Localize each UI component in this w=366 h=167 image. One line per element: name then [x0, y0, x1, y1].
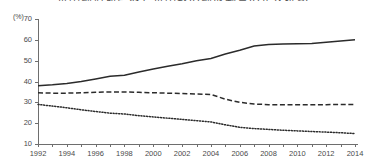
- chart-figure: 世帯構造別にみた世帯数の構成割合の年次推移 (%) 10203040506070…: [0, 0, 366, 167]
- solid-line-series: [38, 40, 355, 86]
- dashed-line-series: [38, 92, 355, 105]
- series-layer: [0, 0, 366, 167]
- dotted-line-series: [38, 104, 355, 133]
